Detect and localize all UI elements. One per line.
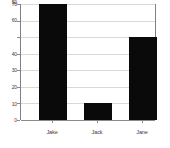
x-tick-mark	[97, 120, 98, 123]
x-tick-label-jack: Jack	[92, 129, 103, 135]
bar-jane[interactable]	[129, 37, 157, 120]
bar-chart: 70 60 50 40 30 20 10 0 Jake Jac	[0, 0, 170, 148]
x-tick-mark	[52, 120, 53, 123]
bar-jack[interactable]	[84, 103, 112, 120]
x-tick-label-jane: Jane	[136, 129, 148, 135]
x-tick-mark	[142, 120, 143, 123]
y-tick-mark	[17, 120, 20, 121]
plot-area	[20, 4, 156, 120]
x-axis-baseline	[21, 120, 155, 121]
x-tick-label-jake: Jake	[46, 129, 57, 135]
bar-jake[interactable]	[39, 4, 67, 120]
